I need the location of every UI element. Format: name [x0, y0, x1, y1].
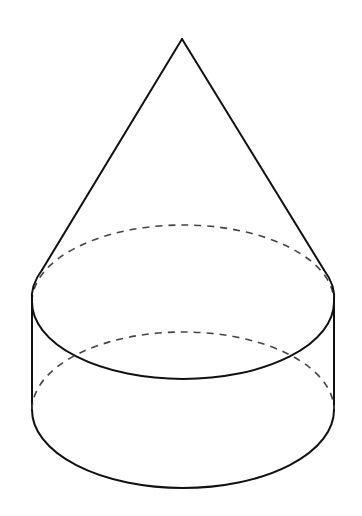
bottom-ellipse-front-arc [32, 410, 334, 488]
cone-left-edge [42, 39, 182, 270]
cone-on-cylinder-diagram [0, 0, 362, 516]
cone-right-edge [182, 39, 324, 270]
top-ellipse-front-arc [32, 302, 334, 379]
top-ellipse-left-silhouette [32, 270, 42, 302]
top-ellipse-right-silhouette [324, 270, 334, 302]
bottom-ellipse-hidden-arc [32, 332, 334, 410]
top-ellipse-hidden-arc [32, 225, 334, 302]
